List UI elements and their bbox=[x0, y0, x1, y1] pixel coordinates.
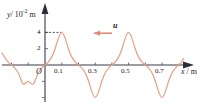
wave-graph-figure: y/ 10-2 m x / m O 0.1 0.3 0.5 0.7 4 2 u bbox=[0, 0, 204, 107]
x-tick-label-3: 0.7 bbox=[155, 68, 164, 75]
x-tick-label-2: 0.5 bbox=[121, 68, 130, 75]
y-tick-label-1: 2 bbox=[37, 45, 41, 52]
y-axis-arrowhead bbox=[42, 3, 49, 14]
x-tick-label-0: 0.1 bbox=[54, 68, 63, 75]
x-axis-title: x / m bbox=[181, 68, 197, 76]
velocity-label: u bbox=[113, 22, 117, 30]
y-axis-title: y/ 10-2 m bbox=[7, 9, 36, 19]
velocity-arrow-head bbox=[94, 31, 100, 36]
y-axis-title-unit-m: m bbox=[29, 10, 35, 19]
origin-label: O bbox=[36, 68, 42, 76]
x-axis-title-unit: m bbox=[191, 67, 197, 76]
x-tick-label-1: 0.3 bbox=[88, 68, 97, 75]
velocity-arrow bbox=[94, 31, 112, 36]
y-axis-title-sep: / 10 bbox=[11, 10, 23, 19]
y-tick-label-0: 4 bbox=[37, 29, 41, 36]
